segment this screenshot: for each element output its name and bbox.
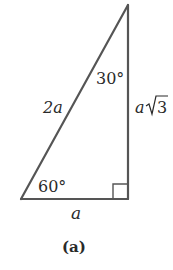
vertical-side-sqrt-arg: 3 <box>157 98 167 117</box>
top-angle-label: 30° <box>96 69 124 88</box>
base-label: a <box>71 203 81 223</box>
figure-caption: (a) <box>62 238 86 256</box>
triangle-diagram: 30° 2a a 3 60° a (a) <box>0 0 173 270</box>
hypotenuse-line <box>21 5 128 199</box>
hypotenuse-label: 2a <box>42 98 63 117</box>
bottom-angle-label: 60° <box>38 177 66 196</box>
right-angle-marker-icon <box>113 184 128 199</box>
vertical-side-label: a <box>135 98 145 117</box>
